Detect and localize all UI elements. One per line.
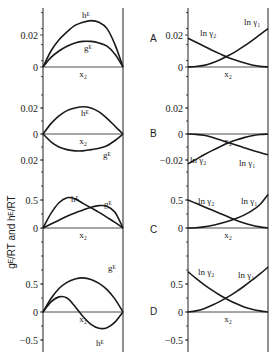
series-label: ln γ₁ [244,17,260,27]
x-axis-label: x₂ [224,69,232,79]
chart-panel-c-right: 00.5x₂ [171,172,269,256]
chart-panel-c-left: 00.5x₂ [26,172,124,256]
y-tick-label: −0.5 [165,335,183,346]
y-tick-label: 0 [33,223,38,234]
series-label: gᴱ [108,263,117,273]
series-label: gᴱ [104,199,113,209]
y-tick-label: 0 [33,129,38,140]
x-axis-label: x₂ [79,69,87,79]
y-tick-label: 0.5 [26,195,39,206]
y-tick-label: 0.02 [21,30,39,41]
series-label: ln γ₂ [198,196,214,206]
chart-panel-b-right: 0.020−0.02x₂ [160,95,268,166]
series-label: ln γ₂ [198,267,214,277]
series-label: hᴱ [82,10,91,20]
x-axis-label: x₂ [224,314,232,324]
y-tick-label: −0.5 [20,335,38,346]
panel-label-a: A [150,33,157,44]
series-label: ln γ₁ [239,158,255,168]
y-tick-label: 0 [178,62,183,73]
x-axis-label: x₂ [79,136,87,146]
figure: 00.02x₂00.02x₂0.0200.02x₂0.020−0.02x₂00.… [0,0,276,359]
panel-label-c: C [150,224,157,235]
y-tick-label: 0.5 [171,279,184,290]
y-tick-label: 0 [33,62,38,73]
y-tick-label: 0.02 [21,103,39,114]
y-tick-label: 0.02 [166,30,184,41]
series-label: gᴱ [103,150,112,160]
series-label: hᴱ [81,108,90,118]
series-label: ln γ₂ [200,28,216,38]
y-tick-label: 0 [178,129,183,140]
series-label: gᴱ [84,43,93,53]
y-tick-label: 0.5 [26,279,39,290]
y-axis-label: gᴱ/RT and hᴱ/RT [6,195,17,268]
panel-label-b: B [150,128,157,139]
series-label: ln γ₂ [190,155,206,165]
series-curve [188,38,268,67]
series-label: hᴱ [96,338,105,348]
y-tick-label: 0.5 [171,195,184,206]
chart-panel-a-left: 00.02x₂ [21,13,124,79]
series-label: hᴱ [71,194,80,204]
series-label: ln γ₁ [241,196,257,206]
x-axis-label: x₂ [224,230,232,240]
series-curve [43,21,123,67]
series-label: ln γ₁ [238,270,254,280]
y-tick-label: 0.02 [21,155,39,166]
x-axis-label: x₂ [79,230,87,240]
y-tick-label: −0.02 [160,155,183,166]
chart-panel-d-left: 0.50−0.5x₂ [20,270,123,346]
y-tick-label: 0.02 [166,103,184,114]
y-tick-label: 0 [33,307,38,318]
y-tick-label: 0 [178,223,183,234]
y-tick-label: 0 [178,307,183,318]
series-curve [43,278,123,312]
panel-label-d: D [150,306,157,317]
